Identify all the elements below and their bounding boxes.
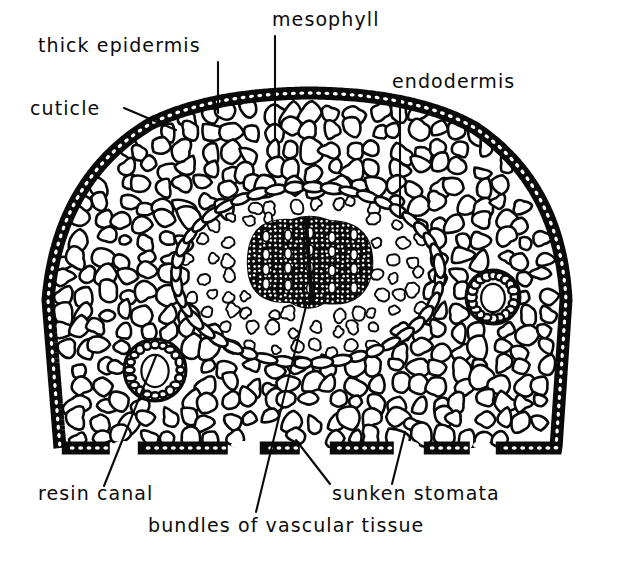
resin-canal-left [124,339,186,401]
leaf-cross-section-figure: thick epidermismesophyllendodermiscuticl… [0,0,621,569]
label-bundles-of-vascular-tissue: bundles of vascular tissue [148,514,424,536]
label-endodermis: endodermis [392,70,515,92]
vascular-bundle-stele [242,214,376,308]
diagram-canvas: thick epidermismesophyllendodermiscuticl… [0,0,621,569]
stoma-0 [113,441,133,449]
stoma-2 [303,441,325,449]
resin-canal-right [466,270,520,324]
label-resin-canal: resin canal [38,482,154,504]
stoma-1 [231,441,255,449]
label-thick-epidermis: thick epidermis [38,34,201,56]
label-cuticle: cuticle [30,97,100,119]
label-mesophyll: mesophyll [272,8,380,30]
stoma-4 [473,441,491,449]
label-sunken-stomata: sunken stomata [332,482,500,504]
